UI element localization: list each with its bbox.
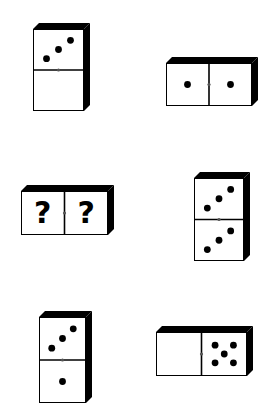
pip-dot xyxy=(67,37,74,44)
question-mark: ? xyxy=(34,195,51,230)
domino-3-unknown: ?? xyxy=(21,185,116,237)
pip-dot xyxy=(59,378,66,385)
pip-dot xyxy=(59,335,66,342)
domino-2 xyxy=(166,57,260,108)
pip-dot xyxy=(227,81,234,88)
pip-dot xyxy=(43,55,50,62)
pip-dot xyxy=(184,81,191,88)
pip-dot xyxy=(48,345,55,352)
domino-half-left: ? xyxy=(34,195,51,230)
domino-1 xyxy=(33,23,92,113)
pip-dot xyxy=(230,342,237,349)
domino-6 xyxy=(156,326,255,378)
pip-dot xyxy=(204,246,211,253)
pip-dot xyxy=(216,237,223,244)
question-mark: ? xyxy=(78,195,95,230)
pip-dot xyxy=(221,351,228,358)
domino-4 xyxy=(194,172,252,263)
domino-half-right xyxy=(227,81,234,88)
pip-dot xyxy=(212,342,219,349)
domino-half-left xyxy=(184,81,191,88)
pip-dot xyxy=(55,46,62,53)
pip-dot xyxy=(230,359,237,366)
pip-dot xyxy=(227,186,234,193)
pip-dot xyxy=(204,205,211,212)
pip-dot xyxy=(227,228,234,235)
domino-5 xyxy=(39,311,94,405)
pip-dot xyxy=(216,195,223,202)
domino-half-right: ? xyxy=(78,195,95,230)
pip-dot xyxy=(212,359,219,366)
domino-half-bottom xyxy=(59,378,66,385)
pip-dot xyxy=(70,325,77,332)
